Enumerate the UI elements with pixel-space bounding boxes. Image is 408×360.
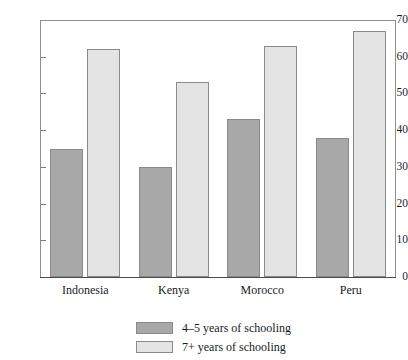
- bar-chart-figure: 706050403020100 IndonesiaKenyaMoroccoPer…: [0, 0, 408, 360]
- bars-layer: [41, 20, 395, 277]
- bar: [264, 46, 297, 277]
- x-axis-category-label: Indonesia: [41, 283, 130, 297]
- legend-label: 4–5 years of schooling: [182, 321, 291, 335]
- x-axis-category-label: Kenya: [130, 283, 219, 297]
- bar: [227, 119, 260, 277]
- legend-item: 4–5 years of schooling: [0, 318, 408, 337]
- bar: [316, 138, 349, 278]
- x-axis-category-label: Morocco: [218, 283, 307, 297]
- legend-item: 7+ years of schooling: [0, 337, 408, 356]
- chart-title-clipped: [0, 0, 408, 9]
- bar: [87, 49, 120, 277]
- bar: [353, 31, 386, 277]
- legend-swatch: [136, 322, 173, 334]
- legend-label: 7+ years of schooling: [182, 340, 286, 354]
- legend-swatch: [136, 341, 173, 353]
- legend: 4–5 years of schooling7+ years of school…: [0, 318, 408, 356]
- x-axis-category-label: Peru: [307, 283, 396, 297]
- bar: [176, 82, 209, 277]
- x-axis-baseline: [40, 277, 396, 278]
- bar: [139, 167, 172, 277]
- bar: [50, 149, 83, 278]
